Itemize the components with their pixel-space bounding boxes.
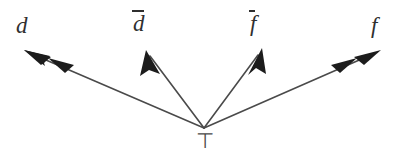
arrow-d-head-outer-fill	[24, 50, 51, 65]
arrow-f	[204, 50, 381, 128]
arrow-dbar	[140, 50, 204, 128]
arrow-dbar-head	[140, 50, 160, 76]
overline-group-dbar: d	[133, 10, 145, 35]
overline-group-fbar: f	[250, 10, 256, 35]
arrow-fbar	[204, 48, 266, 128]
node-label-f-text: f	[371, 13, 377, 38]
node-label-d-text: d	[16, 13, 28, 38]
arrow-fbar-head	[248, 48, 266, 75]
arrow-d	[24, 50, 204, 128]
arrow-f-head-outer	[354, 50, 381, 65]
node-label-fbar-text: f	[250, 11, 256, 36]
arrow-diagram-figure: d d f f ⊤	[0, 0, 404, 162]
node-label-d: d	[16, 14, 28, 37]
top-symbol: ⊤	[196, 131, 214, 152]
node-label-f: f	[371, 14, 377, 37]
node-label-dbar: d	[133, 10, 145, 35]
overline-bar-fbar	[249, 10, 255, 12]
node-label-dbar-text: d	[133, 11, 145, 36]
node-label-fbar: f	[250, 10, 256, 35]
overline-bar-dbar	[132, 10, 144, 12]
